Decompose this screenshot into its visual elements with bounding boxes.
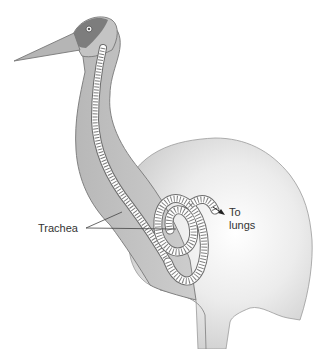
to-lungs-label-line1: To xyxy=(229,206,241,218)
trachea-label: Trachea xyxy=(38,222,78,234)
crane-illustration xyxy=(0,0,315,349)
crane-beak xyxy=(14,33,80,61)
crane-trachea-diagram: Trachea To lungs xyxy=(0,0,315,349)
to-lungs-label-line2: lungs xyxy=(229,219,255,231)
